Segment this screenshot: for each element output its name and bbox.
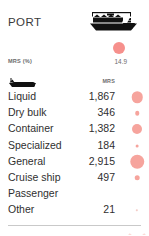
table-column-header: MRS bbox=[8, 74, 141, 89]
row-label: Other bbox=[8, 203, 34, 215]
row-label: Passenger bbox=[8, 187, 58, 199]
table-row[interactable]: Liquid 1,867 bbox=[8, 89, 141, 105]
row-bubble bbox=[135, 144, 138, 147]
row-value: 497 bbox=[97, 171, 115, 183]
table-divider bbox=[8, 225, 141, 226]
cargo-ship-icon bbox=[87, 10, 141, 34]
metric-value: 14.9 bbox=[115, 58, 127, 65]
table-row[interactable]: General 2,915 bbox=[8, 154, 141, 170]
total-label: Vessels bbox=[8, 233, 44, 236]
row-value: 184 bbox=[97, 139, 115, 151]
row-label: General bbox=[8, 155, 45, 167]
vessel-type-table: MRS Liquid 1,867 Dry bulk 346 Container … bbox=[8, 74, 141, 235]
table-row[interactable]: Dry bulk 346 bbox=[8, 105, 141, 121]
vessel-icon bbox=[8, 75, 39, 86]
legend-bubble-icon bbox=[113, 42, 125, 54]
row-value: 2,915 bbox=[89, 155, 115, 167]
row-bubble bbox=[136, 210, 138, 212]
table-row[interactable]: Specialized 184 bbox=[8, 138, 141, 154]
row-value: 346 bbox=[97, 106, 115, 118]
row-value: 1,867 bbox=[89, 90, 115, 102]
row-bubble bbox=[135, 111, 140, 116]
row-bubble bbox=[132, 124, 142, 134]
row-bubble bbox=[134, 175, 139, 180]
row-label: Container bbox=[8, 122, 54, 134]
row-bubble bbox=[131, 91, 143, 103]
table-total-row[interactable]: Vessels 7,212 bbox=[8, 231, 141, 236]
legend-and-metric-row: MRS (%) 14.9 bbox=[8, 40, 141, 72]
table-row[interactable]: Container 1,382 bbox=[8, 121, 141, 137]
row-label: Specialized bbox=[8, 139, 62, 151]
table-row[interactable]: Cruise ship 497 bbox=[8, 170, 141, 186]
total-bubble-group bbox=[126, 232, 148, 236]
row-value: 1,382 bbox=[89, 122, 115, 134]
table-row[interactable]: Passenger bbox=[8, 186, 141, 202]
metric-label: MRS (%) bbox=[8, 58, 32, 64]
value-column-header: MRS bbox=[102, 78, 115, 84]
total-value: 7,212 bbox=[89, 233, 115, 236]
row-label: Cruise ship bbox=[8, 171, 61, 183]
row-bubble bbox=[130, 155, 145, 170]
page-title: PORT bbox=[8, 16, 41, 28]
row-value: 21 bbox=[103, 203, 115, 215]
row-label: Dry bulk bbox=[8, 106, 47, 118]
port-summary-panel: PORT bbox=[0, 0, 149, 235]
table-row[interactable]: Other 21 bbox=[8, 202, 141, 218]
panel-header: PORT bbox=[8, 0, 141, 40]
cross-mark-icon bbox=[126, 232, 148, 236]
row-label: Liquid bbox=[8, 90, 36, 102]
